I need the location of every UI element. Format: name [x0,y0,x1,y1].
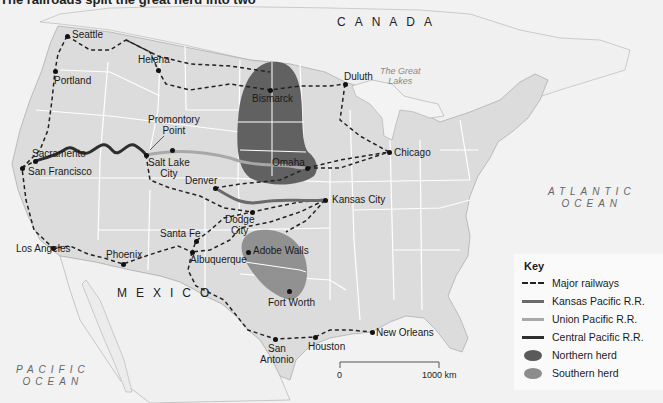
city-label: Denver [185,175,217,186]
line-swatch-icon [520,318,546,321]
city-dot-icon [273,337,278,342]
key-item-major-railways: Major railways [520,276,619,290]
city-label: Salt LakeCity [148,157,190,179]
city-dot-icon [20,166,25,171]
city-label: Sacramento [32,148,86,159]
city-label: Adobe Walls [253,245,309,256]
city-label: SanAntonio [260,343,294,365]
city-label: Bismarck [252,93,293,104]
city-label: Phoenix [106,249,142,260]
ocean-label-pacific: PACIFIC OCEAN [16,364,90,388]
city-label: San Francisco [28,166,92,177]
city-dot-icon [343,82,348,87]
city-label: Santa Fe [160,228,201,239]
railroads-buffalo-map: The railroads split the great herd into … [0,0,663,403]
city-dot-icon [213,186,218,191]
city-label: New Orleans [376,327,434,338]
city-dot-icon [170,148,175,153]
country-label-canada: CANADA [337,15,441,29]
city-label: Duluth [344,71,373,82]
city-label: Los Angeles [16,243,71,254]
great-lakes-label: The Great Lakes [380,66,421,86]
dashed-line-icon [520,282,546,284]
map-key: Key Major railways Kansas Pacific R.R. U… [514,254,663,390]
city-dot-icon [65,34,70,39]
scale-bar [340,362,439,368]
city-dot-icon [156,68,161,73]
city-dot-icon [305,166,310,171]
city-label: Kansas City [332,194,385,205]
scale-start-label: 0 [337,370,342,380]
blob-swatch-icon [520,368,546,379]
city-dot-icon [287,289,292,294]
city-dot-icon [33,159,38,164]
key-item-union-pacific: Union Pacific R.R. [520,312,637,326]
city-label: Helena [138,54,170,65]
city-label: Portland [54,75,91,86]
city-dot-icon [370,330,375,335]
key-item-central-pacific: Central Pacific R.R. [520,330,644,344]
city-dot-icon [53,69,58,74]
line-swatch-icon [520,336,546,339]
city-label: Chicago [394,147,431,158]
key-item-kansas-pacific: Kansas Pacific R.R. [520,294,645,308]
country-label-mexico: MEXICO [117,286,218,300]
city-label: PromontoryPoint [148,114,200,136]
city-dot-icon [121,262,126,267]
city-label: Omaha [272,157,305,168]
ocean-label-atlantic: ATLANTIC OCEAN [548,186,636,210]
line-swatch-icon [520,300,546,303]
city-dot-icon [323,198,328,203]
blob-swatch-icon [520,350,546,361]
city-label: Seattle [72,29,103,40]
city-dot-icon [387,150,392,155]
city-label: Fort Worth [268,297,315,308]
city-label: Houston [308,341,345,352]
key-item-southern-herd: Southern herd [520,366,619,380]
city-label: Albuquerque [190,254,247,265]
city-dot-icon [194,239,199,244]
city-dot-icon [313,335,318,340]
city-dot-icon [246,250,251,255]
city-label: DodgeCity [225,214,254,236]
key-item-northern-herd: Northern herd [520,348,617,362]
scale-end-label: 1000 km [422,370,457,380]
key-title: Key [524,260,544,272]
